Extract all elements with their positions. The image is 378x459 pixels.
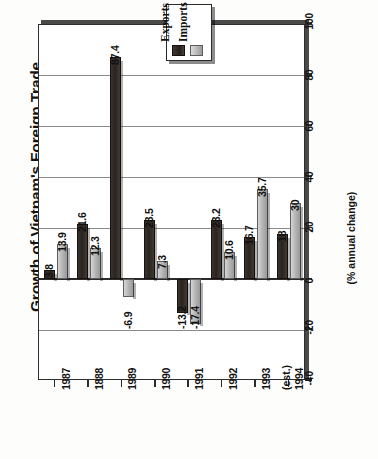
- legend-label-imports: Imports: [177, 2, 189, 42]
- y-tick-label: 40: [304, 171, 315, 182]
- x-tick-label-1992: 1992: [227, 368, 239, 390]
- bar-imports-1993: [257, 189, 268, 280]
- value-label-imports-1987: 13.9: [56, 232, 68, 252]
- legend-label-exports: Exports: [159, 3, 171, 42]
- value-label-exports-1993: 16.7: [243, 225, 255, 245]
- x-tick-label-1991: 1991: [193, 368, 205, 390]
- chart-canvas: Growth of Vietnam's Foreign Trade (% ann…: [0, 0, 378, 459]
- value-label-imports-1992: 10.6: [223, 241, 235, 261]
- y-tick-label: -20: [304, 320, 315, 334]
- x-tick-label-1989: 1989: [126, 368, 138, 390]
- chart-legend: ExportsImports: [166, 4, 212, 61]
- bar-imports-1989: [123, 279, 134, 297]
- y-tick-label: 100: [304, 13, 315, 30]
- bar-imports-1994: [290, 203, 301, 279]
- imports-swatch: [190, 45, 203, 56]
- x-tick-mark: [254, 380, 255, 387]
- x-tick-mark: [154, 380, 155, 387]
- bar-series-container: 3.813.921.612.387.4-6.923.57.3-13.2-17.4…: [39, 25, 304, 379]
- bar-exports-1992: [211, 220, 222, 279]
- value-label-imports-1991: -17.4: [189, 306, 201, 329]
- value-label-exports-1888: 21.6: [76, 213, 88, 233]
- x-tick-label-1993: 1993: [260, 368, 272, 390]
- y-tick-label: 0: [304, 278, 315, 284]
- value-label-imports-1990: 7.3: [156, 255, 168, 269]
- y-tick-label: 80: [304, 69, 315, 80]
- exports-swatch: [172, 45, 185, 56]
- value-label-exports-1991: -13.2: [176, 306, 188, 329]
- bar-exports-1990: [144, 220, 155, 280]
- y-tick-label: -40: [304, 371, 315, 385]
- x-tick-label-1994: 1994: [293, 368, 305, 390]
- x-tick-label-1987: 1987: [60, 368, 72, 390]
- x-tick-label-1888: 1888: [93, 368, 105, 390]
- y-axis-title: (% annual change): [345, 163, 357, 313]
- value-label-exports-1989: 87.4: [109, 45, 121, 65]
- value-label-exports-1994: 18: [276, 230, 288, 241]
- x-tick-mark: [121, 380, 122, 387]
- value-label-imports-1993: 35.7: [256, 177, 268, 197]
- value-label-imports-1994: 30: [289, 200, 301, 211]
- bar-exports-1989: [110, 57, 121, 279]
- x-tick-sublabel-1994: (est.): [280, 365, 292, 390]
- x-tick-label-1990: 1990: [160, 368, 172, 390]
- value-label-imports-1888: 12.3: [89, 236, 101, 256]
- value-label-exports-1992: 23.2: [210, 209, 222, 229]
- x-tick-mark: [87, 380, 88, 387]
- value-label-exports-1990: 23.5: [143, 208, 155, 228]
- y-tick-label: 60: [304, 120, 315, 131]
- plot-area: 3.813.921.612.387.4-6.923.57.3-13.2-17.4…: [38, 24, 305, 380]
- x-tick-mark: [187, 380, 188, 387]
- value-label-imports-1989: -6.9: [122, 312, 134, 329]
- value-label-exports-1987: 3.8: [43, 264, 55, 278]
- y-tick-label: 20: [304, 222, 315, 233]
- x-tick-mark: [54, 380, 55, 387]
- x-tick-mark: [221, 380, 222, 387]
- bar-exports-1888: [77, 224, 88, 279]
